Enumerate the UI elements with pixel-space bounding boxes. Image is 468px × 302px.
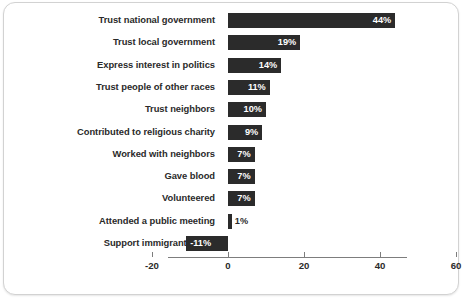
bar-row: Trust people of other races11% [0,78,468,96]
x-axis-tick-label: 20 [284,260,324,271]
bar-value-label: 7% [228,191,251,206]
category-label: Volunteered [162,189,215,207]
bar-row: Trust neighbors10% [0,100,468,118]
bar-row: Trust local government19% [0,33,468,51]
x-axis-tick-label: -20 [132,260,172,271]
category-label: Trust people of other races [96,78,215,96]
bar-value-label: 11% [228,80,266,95]
category-label: Trust local government [113,33,215,51]
bar-row: Attended a public meeting1% [0,212,468,230]
bar-row: Gave blood7% [0,167,468,185]
category-label: Express interest in politics [97,56,215,74]
bar-value-label: 7% [228,147,251,162]
bar-value-label: 1% [235,214,248,229]
bar-chart: Trust national government44%Trust local … [0,0,468,302]
bar-row: Trust national government44% [0,11,468,29]
bar-value-label: 7% [228,169,251,184]
bar-row: Support immigrant rights-11% [0,234,468,252]
category-label: Worked with neighbors [113,145,215,163]
x-axis-tick [152,252,153,257]
x-axis-tick [380,252,381,257]
category-label: Contributed to religious charity [77,123,215,141]
x-axis-line [168,257,407,258]
bar-value-label: 19% [228,35,296,50]
bar [228,214,232,229]
bar-row: Contributed to religious charity9% [0,123,468,141]
bar-value-label: -11% [190,236,228,251]
category-label: Gave blood [164,167,215,185]
bar-row: Express interest in politics14% [0,56,468,74]
bar-row: Worked with neighbors7% [0,145,468,163]
bar-value-label: 44% [228,13,391,28]
bar-row: Volunteered7% [0,189,468,207]
category-label: Trust national government [99,11,215,29]
category-label: Attended a public meeting [99,212,215,230]
x-axis-tick [228,252,229,257]
x-axis-tick [304,252,305,257]
x-axis-tick-label: 0 [208,260,248,271]
bar-value-label: 10% [228,102,262,117]
x-axis-tick-label: 40 [360,260,400,271]
x-axis-tick [456,252,457,257]
x-axis-tick-label: 60 [436,260,468,271]
category-label: Trust neighbors [145,100,215,118]
bar-value-label: 9% [228,125,258,140]
bar-value-label: 14% [228,58,277,73]
